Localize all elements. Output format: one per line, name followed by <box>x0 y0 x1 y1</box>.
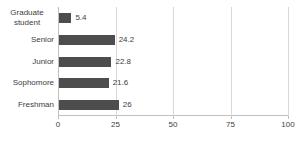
bar-chart: Graduate studentSeniorJuniorSophomoreFre… <box>0 0 308 141</box>
bar-row-junior: 22.8 <box>59 57 111 67</box>
bar-value-sophomore: 21.6 <box>113 78 129 88</box>
bar-junior <box>59 57 111 67</box>
category-label-text: Freshman <box>18 100 54 110</box>
bar-value-freshman: 26 <box>123 100 132 110</box>
bar-graduate-student <box>59 13 71 23</box>
category-axis-labels: Graduate studentSeniorJuniorSophomoreFre… <box>0 7 58 116</box>
category-label-senior: Senior <box>0 29 58 51</box>
category-label-text: Graduate student <box>0 8 54 27</box>
x-tick-label-0: 0 <box>56 120 60 130</box>
bar-row-graduate-student: 5.4 <box>59 13 71 23</box>
bar-row-sophomore: 21.6 <box>59 78 109 88</box>
gridline-50 <box>173 7 174 116</box>
plot-area: 5.424.222.821.626 <box>58 7 288 116</box>
category-label-graduate-student: Graduate student <box>0 7 58 29</box>
category-label-freshman: Freshman <box>0 94 58 116</box>
tick-mark-0 <box>58 116 59 119</box>
bar-value-junior: 22.8 <box>115 57 131 67</box>
tick-mark-50 <box>173 116 174 119</box>
gridline-75 <box>231 7 232 116</box>
bar-sophomore <box>59 78 109 88</box>
bar-row-senior: 24.2 <box>59 35 115 45</box>
tick-mark-100 <box>288 116 289 119</box>
bar-value-graduate-student: 5.4 <box>75 13 86 23</box>
category-label-text: Senior <box>31 35 54 45</box>
category-label-text: Junior <box>32 57 54 67</box>
category-label-text: Sophomore <box>13 78 54 88</box>
x-tick-label-50: 50 <box>169 120 178 130</box>
bar-value-senior: 24.2 <box>119 35 135 45</box>
category-label-sophomore: Sophomore <box>0 72 58 94</box>
bar-freshman <box>59 100 119 110</box>
x-tick-label-100: 100 <box>281 120 294 130</box>
x-tick-label-25: 25 <box>111 120 120 130</box>
bar-senior <box>59 35 115 45</box>
bar-row-freshman: 26 <box>59 100 119 110</box>
category-label-junior: Junior <box>0 51 58 73</box>
x-tick-label-75: 75 <box>226 120 235 130</box>
x-axis-tick-labels: 0255075100 <box>58 120 288 132</box>
gridline-100 <box>288 7 289 116</box>
tick-mark-25 <box>116 116 117 119</box>
tick-mark-75 <box>231 116 232 119</box>
